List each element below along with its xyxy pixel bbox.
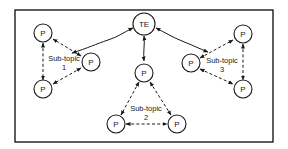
node-st1-bottom: P [34, 80, 52, 98]
discussion-network-diagram: TE P P P P P P P P P Sub-topic 1 S [0, 0, 288, 149]
node-label: P [141, 69, 146, 78]
node-te: TE [133, 13, 155, 35]
edge-te-subtopic2 [144, 36, 145, 61]
subtopic-label-line1: Sub-topic [48, 54, 80, 63]
subtopic-label-line2: 1 [62, 63, 66, 72]
node-label: P [240, 30, 245, 39]
node-te-label: TE [139, 20, 149, 29]
node-st1-top: P [34, 24, 52, 42]
node-label: P [40, 85, 45, 94]
node-label: P [113, 120, 118, 129]
node-st2-left: P [107, 115, 125, 133]
node-label: P [88, 58, 93, 67]
node-st3-bottom: P [234, 80, 252, 98]
node-st1-hub: P [82, 53, 100, 71]
node-label: P [240, 85, 245, 94]
node-label: P [188, 59, 193, 68]
subtopic-label-line1: Sub-topic [130, 104, 162, 113]
node-label: P [174, 120, 179, 129]
node-st3-top: P [234, 25, 252, 43]
node-st2-hub: P [135, 64, 153, 82]
subtopic-label-line2: 2 [144, 113, 148, 122]
node-label: P [40, 29, 45, 38]
node-st2-right: P [168, 115, 186, 133]
subtopic-label-line2: 3 [220, 65, 224, 74]
node-st3-hub: P [182, 54, 200, 72]
subtopic-label-line1: Sub-topic [206, 56, 238, 65]
